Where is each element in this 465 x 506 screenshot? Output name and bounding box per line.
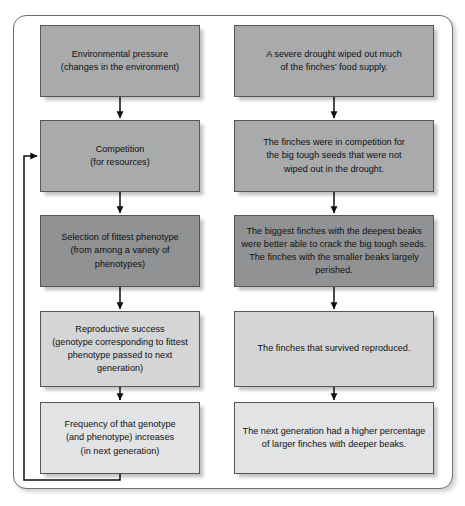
node-reproductive-success[interactable]: Reproductive success (genotype correspon… <box>40 311 200 387</box>
node-next-generation-higher-percentage[interactable]: The next generation had a higher percent… <box>234 402 434 474</box>
node-label: Selection of fittest phenotype (from amo… <box>41 231 199 271</box>
node-label: Frequency of that genotype (and phenotyp… <box>58 418 181 458</box>
node-label: A severe drought wiped out much of the f… <box>260 48 408 74</box>
node-label: The finches were in competition for the … <box>257 136 411 176</box>
node-biggest-finches-deepest-beaks[interactable]: The biggest finches with the deepest bea… <box>234 215 434 287</box>
node-finches-competition[interactable]: The finches were in competition for the … <box>234 120 434 192</box>
node-environmental-pressure[interactable]: Environmental pressure (changes in the e… <box>40 25 200 97</box>
node-competition[interactable]: Competition (for resources) <box>40 120 200 192</box>
node-severe-drought[interactable]: A severe drought wiped out much of the f… <box>234 25 434 97</box>
node-label: The finches that survived reproduced. <box>252 342 417 355</box>
flowchart-natural-selection: Environmental pressure (changes in the e… <box>0 0 465 506</box>
node-label: Environmental pressure (changes in the e… <box>55 48 185 74</box>
node-label: Reproductive success (genotype correspon… <box>41 323 199 376</box>
node-frequency-genotype-increases[interactable]: Frequency of that genotype (and phenotyp… <box>40 402 200 474</box>
node-selection-fittest-phenotype[interactable]: Selection of fittest phenotype (from amo… <box>40 215 200 287</box>
node-finches-survived-reproduced[interactable]: The finches that survived reproduced. <box>234 311 434 387</box>
node-label: Competition (for resources) <box>84 143 155 169</box>
node-label: The biggest finches with the deepest bea… <box>235 225 433 278</box>
node-label: The next generation had a higher percent… <box>237 425 432 451</box>
